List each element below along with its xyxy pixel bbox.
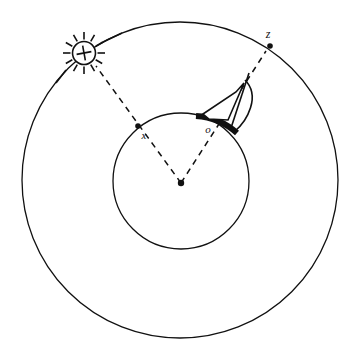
sun-ray-icon	[91, 65, 95, 71]
label-x: x	[141, 129, 147, 141]
sun-ray-icon	[74, 65, 78, 71]
figure-root: x o z	[0, 0, 358, 358]
sun-ray-icon	[74, 35, 78, 41]
point-marker-z	[267, 43, 273, 49]
sun-ray-icon	[66, 60, 72, 64]
center-point-marker	[178, 180, 184, 186]
label-z: z	[265, 27, 271, 41]
quadrant-sail-outline	[203, 83, 244, 120]
label-o: o	[205, 123, 211, 135]
sun-ray-upper-right-icon	[101, 33, 122, 43]
sun-ray-icon	[66, 43, 72, 47]
sun-ray-icon	[96, 60, 102, 64]
sun-ray-lower-left-icon	[56, 70, 66, 83]
sun-ray-icon	[91, 35, 95, 41]
point-marker-x	[135, 123, 141, 129]
diagram-canvas: x o z	[0, 0, 358, 358]
